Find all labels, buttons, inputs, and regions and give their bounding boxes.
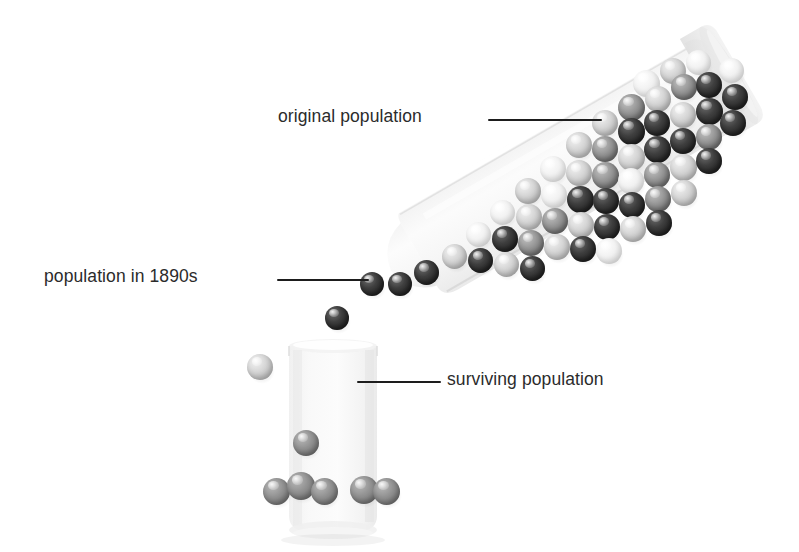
bead-in-tube — [644, 136, 671, 163]
bead-pouring — [414, 260, 439, 285]
bead-in-tube — [671, 180, 697, 206]
bead-pouring — [325, 306, 349, 330]
bead-in-tube — [492, 226, 518, 252]
bead-in-tube — [515, 178, 541, 204]
bead-in-tube — [518, 230, 544, 256]
bead-in-tube — [566, 132, 592, 158]
label-population-in-1890s: population in 1890s — [44, 268, 198, 286]
leader-line-original-population — [488, 119, 602, 121]
bead-in-tube — [670, 154, 697, 181]
bead-in-tube — [618, 144, 645, 171]
bead-in-tube — [542, 208, 568, 234]
bead-in-tube — [494, 252, 519, 277]
bead-in-tube — [540, 156, 566, 182]
bead-in-beaker — [373, 478, 400, 505]
bead-in-tube — [466, 222, 491, 247]
test-tube-group — [330, 10, 799, 330]
bead-in-tube — [442, 244, 467, 269]
leader-line-surviving-population — [357, 381, 441, 383]
bead-in-tube — [719, 58, 744, 83]
beaker-group — [255, 330, 435, 552]
bead-in-tube — [670, 128, 696, 154]
bead-in-tube — [568, 212, 594, 238]
beaker-glass — [255, 330, 435, 552]
bead-in-tube — [620, 216, 646, 242]
bead-in-tube — [516, 204, 542, 230]
bead-in-tube — [696, 148, 722, 174]
bead-in-tube — [593, 188, 619, 214]
bead-in-tube — [566, 160, 592, 186]
label-surviving-population: surviving population — [447, 371, 604, 389]
bead-in-tube — [520, 256, 545, 281]
bead-in-tube — [722, 84, 748, 110]
bead-in-tube — [696, 72, 722, 98]
bead-in-tube — [720, 110, 746, 136]
bead-pouring — [388, 272, 412, 296]
bead-in-tube — [468, 248, 493, 273]
label-original-population: original population — [278, 108, 422, 126]
bead-in-beaker — [247, 354, 273, 380]
bead-in-tube — [696, 98, 723, 125]
bead-in-tube — [592, 110, 618, 136]
bead-in-tube — [596, 238, 622, 264]
bead-in-tube — [619, 192, 645, 218]
bead-in-tube — [592, 162, 619, 189]
bead-in-tube — [567, 186, 594, 213]
bead-in-tube — [696, 124, 722, 150]
bead-in-beaker — [293, 430, 319, 456]
bead-in-tube — [594, 214, 620, 240]
bead-in-tube — [618, 168, 644, 194]
bead-in-tube — [645, 186, 671, 212]
bead-in-tube — [541, 182, 567, 208]
bead-in-tube — [592, 136, 618, 162]
bead-in-tube — [645, 86, 671, 112]
bead-in-tube — [570, 236, 596, 262]
bead-in-beaker — [263, 478, 290, 505]
bead-in-tube — [644, 110, 670, 136]
bead-in-tube — [544, 234, 570, 260]
figure-canvas: original population population in 1890s … — [0, 0, 799, 552]
bead-in-tube — [618, 118, 645, 145]
bead-in-beaker — [311, 478, 338, 505]
bead-in-tube — [490, 200, 515, 225]
bead-in-tube — [670, 102, 696, 128]
bead-pouring — [360, 272, 384, 296]
bead-in-tube — [644, 162, 670, 188]
bead-in-tube — [671, 74, 697, 100]
bead-in-tube — [618, 94, 645, 121]
leader-line-population-1890s — [277, 279, 369, 281]
bead-in-tube — [646, 210, 672, 236]
